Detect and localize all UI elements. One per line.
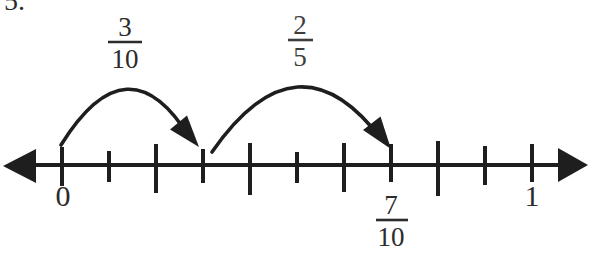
jump-1-denominator: 10 — [112, 44, 139, 74]
left-arrowhead-icon — [3, 149, 36, 183]
number-line — [3, 141, 588, 196]
question-number: 5. — [4, 0, 25, 16]
jump-1-numerator: 3 — [118, 12, 132, 42]
right-arrowhead-icon — [558, 148, 588, 182]
jump-arc-2-curve — [212, 87, 382, 152]
jump-1-fraction-label: 3 10 — [108, 12, 142, 74]
point-fraction-label-7-10: 7 10 — [376, 190, 408, 252]
jump-2-fraction-label: 2 5 — [288, 10, 313, 72]
jump-2-numerator: 2 — [293, 10, 307, 40]
one-label: 1 — [525, 179, 540, 212]
point-label-denominator: 10 — [378, 222, 405, 252]
fraction-number-line-diagram: 5. 3 10 2 5 0 — [0, 0, 590, 253]
jump-arc-1-curve — [61, 89, 190, 145]
tick-marks — [62, 141, 532, 196]
worksheet-figure: 5. 3 10 2 5 0 — [0, 0, 590, 253]
jump-arc-1 — [61, 89, 199, 147]
point-label-numerator: 7 — [384, 190, 398, 220]
zero-label: 0 — [56, 179, 71, 212]
jump-arc-2 — [212, 87, 391, 152]
jump-arc-1-arrowhead-icon — [170, 116, 199, 148]
jump-2-denominator: 5 — [293, 42, 307, 72]
